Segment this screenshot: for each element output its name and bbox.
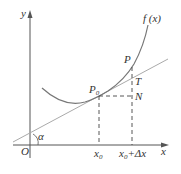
dashed-guides	[99, 67, 132, 145]
y-axis-arrow-icon	[28, 10, 33, 18]
tick-x0-label: x0	[93, 147, 103, 161]
derivative-diagram: y x O f (x) α P0 P T N x0 x0+Δx	[0, 0, 181, 174]
point-n-label: N	[134, 90, 143, 102]
tick-x0dx-label: x0+Δx	[118, 147, 146, 161]
x-axis-label: x	[160, 145, 166, 157]
point-p-label: P	[123, 53, 131, 65]
point-t-label: T	[135, 75, 142, 87]
curve-label: f (x)	[143, 12, 161, 25]
origin-label: O	[21, 145, 29, 157]
y-axis-label: y	[20, 7, 26, 19]
angle-label: α	[38, 130, 44, 142]
point-p0-label: P0	[88, 83, 100, 97]
